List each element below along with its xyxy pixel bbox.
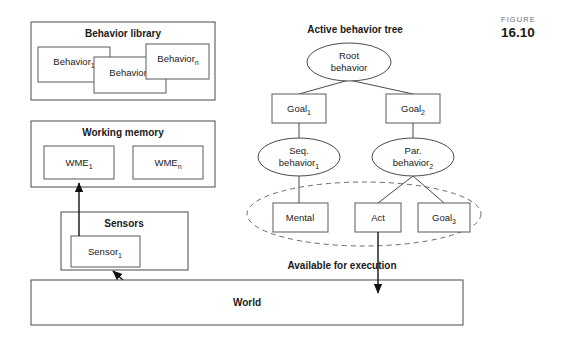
- seq-behavior-line2: behavior1: [279, 157, 319, 170]
- mental-node[interactable]: Mental: [273, 203, 328, 232]
- seq-behavior-node[interactable]: Seq. behavior1: [258, 138, 340, 176]
- wme-n-label: WMEn: [154, 157, 181, 170]
- behavior-library-group: Behavior library Behavior1 Behavior2 Beh…: [31, 22, 215, 100]
- available-for-execution-label: Available for execution: [287, 260, 396, 271]
- working-memory-group: Working memory WME1 WMEn: [31, 121, 215, 187]
- edge-root-goal2: [349, 80, 413, 94]
- root-behavior-line1: Root: [339, 50, 359, 61]
- figure-caption: FIGURE 16.10: [501, 14, 565, 40]
- par-behavior-line2: behavior2: [393, 157, 433, 170]
- act-node[interactable]: Act: [355, 203, 401, 232]
- sensor-1-label: Sensor1: [88, 246, 122, 259]
- root-behavior-node[interactable]: Root behavior: [307, 43, 391, 81]
- behavior-2-label: Behavior2: [109, 67, 151, 80]
- goal-2-node[interactable]: Goal2: [386, 94, 440, 123]
- figure-caption-word: FIGURE: [501, 14, 565, 25]
- par-behavior-line1: Par.: [405, 145, 422, 156]
- root-behavior-line2: behavior: [331, 62, 367, 73]
- goal-3-node[interactable]: Goal3: [418, 203, 470, 232]
- edge-root-goal1: [299, 80, 349, 94]
- act-label: Act: [371, 212, 385, 223]
- world-label: World: [233, 297, 261, 308]
- diagram-canvas: Behavior library Behavior1 Behavior2 Beh…: [0, 0, 577, 340]
- behavior-library-title: Behavior library: [85, 28, 162, 39]
- mental-label: Mental: [286, 212, 315, 223]
- behavior-1-label: Behavior1: [53, 56, 95, 69]
- sensors-title: Sensors: [104, 218, 144, 229]
- behavior-n-label: Behaviorn: [157, 53, 199, 66]
- edge-par-goal3: [413, 176, 444, 203]
- wme-1-label: WME1: [65, 157, 92, 170]
- edge-par-act: [378, 176, 413, 203]
- par-behavior-node[interactable]: Par. behavior2: [372, 138, 454, 176]
- sensors-group: Sensors Sensor1: [61, 212, 188, 270]
- active-behavior-tree-title: Active behavior tree: [307, 24, 403, 35]
- figure-caption-number: 16.10: [501, 25, 565, 40]
- figure-container: Behavior library Behavior1 Behavior2 Beh…: [0, 0, 577, 340]
- working-memory-title: Working memory: [82, 127, 164, 138]
- world-group: World: [31, 280, 463, 325]
- seq-behavior-line1: Seq.: [289, 145, 309, 156]
- goal-1-node[interactable]: Goal1: [272, 94, 326, 123]
